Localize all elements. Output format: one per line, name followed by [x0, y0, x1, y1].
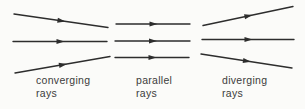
ray-arrowhead-icon [149, 55, 157, 60]
label-converging-line2: rays [36, 87, 90, 100]
label-parallel-line1: parallel [136, 74, 172, 87]
label-parallel-line2: rays [136, 87, 172, 100]
ray-arrowhead-icon [150, 21, 158, 26]
ray-arrowhead-icon [57, 18, 65, 23]
ray-arrowhead-icon [245, 37, 253, 42]
label-diverging-line1: diverging [222, 74, 267, 87]
ray-arrowhead-icon [243, 58, 251, 63]
label-diverging-rays: diverging rays [222, 74, 267, 99]
ray-arrowhead-icon [244, 14, 252, 19]
rays-figure: converging rays parallel rays diverging … [0, 0, 305, 109]
label-parallel-rays: parallel rays [136, 74, 172, 99]
ray-arrowhead-icon [57, 39, 65, 44]
label-diverging-line2: rays [222, 87, 267, 100]
ray-arrowhead-icon [149, 38, 157, 43]
label-converging-rays: converging rays [36, 74, 90, 99]
label-converging-line1: converging [36, 74, 90, 87]
